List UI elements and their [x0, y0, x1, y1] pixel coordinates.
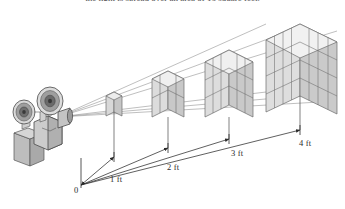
- origin-label: 0: [74, 185, 78, 195]
- dimension-3ft: [81, 139, 229, 185]
- inverse-square-law-diagram: [0, 0, 345, 209]
- movie-projector: [13, 87, 73, 166]
- screen-2ft: [152, 71, 184, 117]
- axis-label-3ft: 3 ft: [231, 148, 243, 158]
- axis-label-4ft: 4 ft: [299, 138, 311, 148]
- screen-4ft: [266, 24, 337, 114]
- dimension-ticks: [114, 125, 300, 162]
- axis-label-2ft: 2 ft: [167, 162, 179, 172]
- axis-label-1ft: 1 ft: [110, 174, 122, 184]
- projector-reel-front: [37, 87, 63, 115]
- projector-lens: [67, 109, 72, 123]
- projector-reel-rear: [13, 100, 35, 124]
- figure-page: the light is spread over an area of 16 s…: [0, 0, 345, 209]
